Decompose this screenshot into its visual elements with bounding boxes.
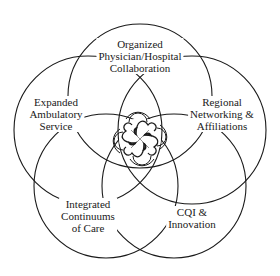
label-left-circle: Expanded Ambulatory Service [27, 96, 84, 132]
label-line: Networking & [190, 108, 254, 120]
label-line: Integrated [61, 198, 115, 210]
label-line: Innovation [168, 218, 216, 230]
label-line: Collaboration [98, 62, 181, 74]
interlocking-quatrefoil-knot-icon [113, 112, 167, 166]
label-line: Regional [190, 96, 254, 108]
label-line: CQI & [168, 206, 216, 218]
label-line: Expanded [29, 96, 82, 108]
label-line: of Care [61, 222, 115, 234]
label-bottom-left-circle: Integrated Continuums of Care [59, 198, 117, 234]
label-line: Ambulatory [29, 108, 82, 120]
label-line: Service [29, 120, 82, 132]
label-line: Physician/Hospital [98, 50, 181, 62]
label-line: Affiliations [190, 120, 254, 132]
label-right-circle: Regional Networking & Affiliations [188, 96, 256, 132]
label-bottom-right-circle: CQI & Innovation [166, 206, 218, 230]
label-line: Organized [98, 38, 181, 50]
label-top-circle: Organized Physician/Hospital Collaborati… [96, 38, 183, 74]
label-line: Continuums [61, 210, 115, 222]
